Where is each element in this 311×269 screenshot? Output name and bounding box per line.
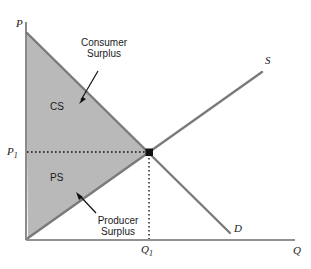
supply-curve-label: S [265, 54, 271, 66]
producer-surplus-callout-text: ProducerSurplus [78, 215, 158, 237]
producer-surplus-callout-line2: Surplus [101, 226, 135, 237]
producer-surplus-short-label: PS [50, 172, 63, 183]
supply-demand-surplus-figure: P Q P1 Q1 S D CS PS ConsumerSurplus Prod… [0, 0, 311, 269]
consumer-surplus-callout-line2: Surplus [87, 48, 121, 59]
demand-curve-label: D [234, 222, 242, 234]
consumer-surplus-callout-text: ConsumerSurplus [65, 37, 143, 59]
consumer-surplus-callout-line1: Consumer [81, 37, 127, 48]
y-axis-label: P [16, 17, 23, 29]
equilibrium-point-marker [146, 149, 154, 157]
equilibrium-quantity-letter: Q [141, 243, 149, 255]
x-axis-label: Q [293, 244, 301, 256]
equilibrium-quantity-label: Q1 [141, 243, 153, 259]
producer-surplus-callout-line1: Producer [98, 215, 139, 226]
consumer-surplus-short-label: CS [50, 101, 64, 112]
equilibrium-quantity-subscript: 1 [149, 249, 153, 258]
equilibrium-price-letter: P [7, 145, 14, 157]
equilibrium-price-subscript: 1 [14, 151, 18, 160]
equilibrium-price-label: P1 [7, 145, 18, 161]
